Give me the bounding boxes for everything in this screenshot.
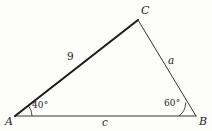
angle-label-a: 40° <box>32 101 48 110</box>
side-label-bc: a <box>168 55 174 66</box>
triangle-figure: A B C 9 a c 40° 60° <box>0 0 212 131</box>
vertex-label-c: C <box>141 5 149 16</box>
vertex-label-a: A <box>5 116 13 127</box>
vertex-label-b: B <box>199 116 207 127</box>
side-label-ab: c <box>102 117 108 128</box>
angle-label-b: 60° <box>164 99 180 108</box>
triangle-svg <box>0 0 212 131</box>
side-label-ac: 9 <box>67 51 74 62</box>
